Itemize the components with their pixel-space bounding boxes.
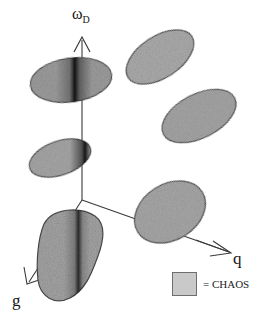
figure-canvas: ωD q g = CHAOS xyxy=(0,0,262,325)
omega-subscript: D xyxy=(83,14,90,25)
chaos-region-lower-left xyxy=(37,205,103,305)
chaos-region-upper-left xyxy=(27,53,114,108)
axis-q-overlay xyxy=(196,240,229,252)
legend-label: = CHAOS xyxy=(203,278,249,290)
axis-label-omega-d: ωD xyxy=(72,6,90,25)
chaos-region-middle-right xyxy=(153,78,244,154)
axis-label-q: q xyxy=(233,250,242,267)
axis-label-g: g xyxy=(12,292,21,309)
omega-glyph: ω xyxy=(72,5,83,22)
chaos-region-middle-left xyxy=(24,132,96,185)
chaos-region-upper-right xyxy=(117,19,204,96)
chaos-swatch xyxy=(172,272,197,296)
legend: = CHAOS xyxy=(172,272,249,296)
